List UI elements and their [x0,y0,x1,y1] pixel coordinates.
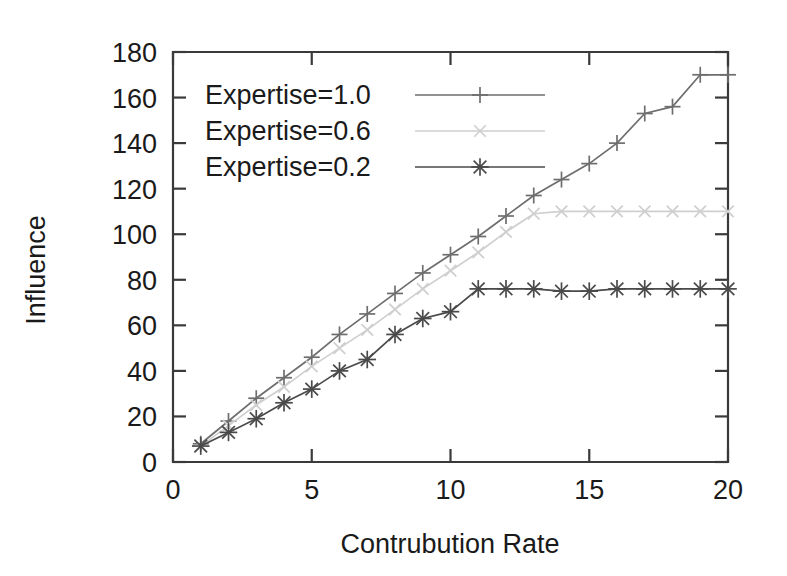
x-tick-label: 0 [165,475,180,505]
data-point-marker-plus [554,172,570,188]
data-point-marker-star [331,362,349,380]
y-tick-label: 140 [112,129,157,159]
y-tick-label: 80 [127,266,157,296]
data-point-marker-star [691,280,709,298]
data-point-marker-cross [389,304,401,316]
legend-label-0: Expertise=1.0 [205,80,371,110]
data-point-marker-cross [417,283,429,295]
y-tick-label: 180 [112,38,157,68]
data-point-marker-star [553,282,571,300]
data-point-marker-plus [581,156,597,172]
data-point-marker-star [414,310,432,328]
data-point-marker-star [220,424,238,442]
chart-figure: 020406080100120140160180 05101520 Expert… [0,0,787,576]
data-point-marker-star [192,437,210,455]
data-point-marker-plus [387,285,403,301]
data-point-marker-star [469,280,487,298]
data-point-marker-star [719,280,737,298]
y-tick-label: 120 [112,175,157,205]
y-tick-label: 40 [127,357,157,387]
data-point-marker-star [664,280,682,298]
data-point-marker-star [303,380,321,398]
data-point-marker-plus [472,87,488,103]
x-axis-title: Contrubution Rate [340,529,559,559]
y-tick-label: 20 [127,402,157,432]
data-point-marker-star [358,351,376,369]
y-tick-label: 60 [127,311,157,341]
data-point-marker-star [497,280,515,298]
series-line [201,289,728,446]
x-tick-label: 15 [574,475,604,505]
series-2 [192,280,737,455]
data-point-marker-cross [361,324,373,336]
x-axis-tick-labels: 05101520 [165,475,743,505]
chart-legend: Expertise=1.0Expertise=0.6Expertise=0.2 [205,80,545,182]
data-point-marker-star [442,303,460,321]
x-tick-label: 20 [713,475,743,505]
y-tick-label: 0 [142,448,157,478]
data-point-marker-cross [472,247,484,259]
line-chart: 020406080100120140160180 05101520 Expert… [0,0,787,576]
series-line [201,211,728,446]
data-point-marker-star [580,282,598,300]
x-tick-label: 5 [304,475,319,505]
data-point-marker-cross [445,265,457,277]
data-point-marker-plus [498,208,514,224]
data-point-marker-plus [443,247,459,263]
data-point-marker-plus [359,306,375,322]
y-tick-label: 100 [112,220,157,250]
data-point-marker-star [525,280,543,298]
data-point-marker-plus [415,265,431,281]
y-axis-title: Influence [21,215,51,325]
data-point-marker-cross [334,342,346,354]
data-point-marker-plus [526,188,542,204]
data-point-marker-plus [720,67,736,83]
legend-label-1: Expertise=0.6 [205,116,371,146]
data-point-marker-star [608,280,626,298]
data-point-marker-star [275,394,293,412]
x-tick-label: 10 [435,475,465,505]
data-point-marker-cross [500,226,512,238]
data-point-marker-star [386,326,404,344]
data-point-marker-star [471,158,489,176]
y-tick-label: 160 [112,84,157,114]
y-axis-tick-labels: 020406080100120140160180 [112,38,157,478]
data-point-marker-star [636,280,654,298]
series-1 [195,206,734,452]
data-point-marker-star [247,410,265,428]
legend-label-2: Expertise=0.2 [205,152,371,182]
data-point-marker-plus [470,229,486,245]
